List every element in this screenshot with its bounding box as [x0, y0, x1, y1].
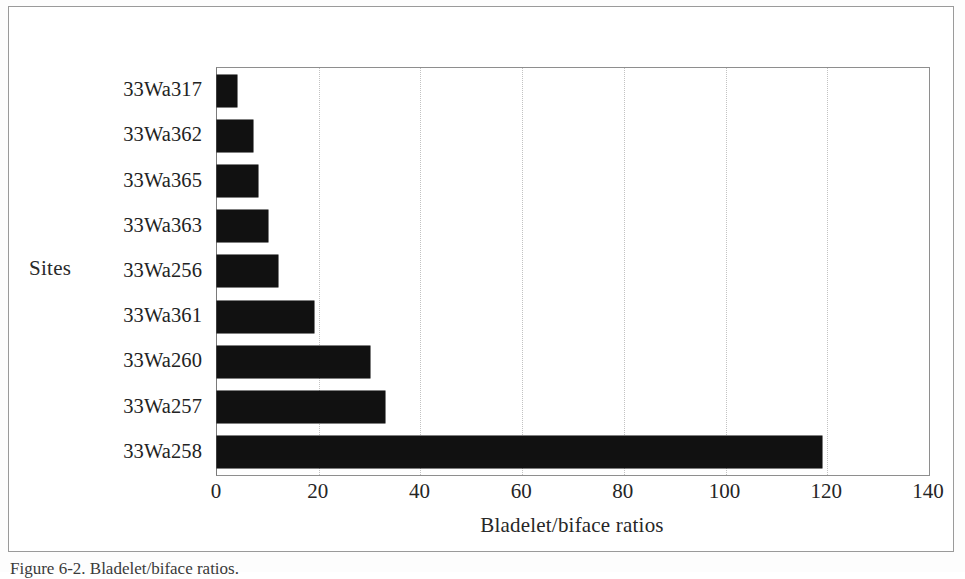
y-axis-title: Sites [29, 256, 109, 280]
figure-frame: Sites 33Wa31733Wa36233Wa36533Wa36333Wa25… [8, 6, 954, 552]
x-axis-tick-labels: 020406080100120140 [216, 479, 928, 509]
bar [217, 75, 237, 107]
bar [217, 346, 370, 378]
category-label: 33Wa362 [105, 112, 209, 157]
bar-row [217, 204, 929, 249]
bar-row [217, 158, 929, 203]
bar [217, 120, 253, 152]
bars-layer [217, 68, 929, 475]
category-label: 33Wa363 [105, 203, 209, 248]
x-tick-label: 80 [612, 479, 633, 504]
category-label: 33Wa317 [105, 67, 209, 112]
bar [217, 391, 385, 423]
category-label: 33Wa256 [105, 248, 209, 293]
category-label: 33Wa257 [105, 384, 209, 429]
bar-row [217, 385, 929, 430]
x-tick-label: 40 [409, 479, 430, 504]
bar [217, 210, 268, 242]
bar-row [217, 294, 929, 339]
category-label: 33Wa365 [105, 157, 209, 202]
bar-row [217, 113, 929, 158]
x-tick-label: 100 [709, 479, 741, 504]
x-tick-label: 0 [211, 479, 222, 504]
figure-caption: Figure 6-2. Bladelet/biface ratios. [10, 559, 950, 579]
x-tick-label: 20 [307, 479, 328, 504]
x-tick-label: 120 [811, 479, 843, 504]
bar [217, 165, 258, 197]
category-axis-labels: 33Wa31733Wa36233Wa36533Wa36333Wa25633Wa3… [105, 67, 209, 474]
category-label: 33Wa258 [105, 429, 209, 474]
bar-row [217, 249, 929, 294]
bar-row [217, 339, 929, 384]
bar [217, 255, 278, 287]
category-label: 33Wa260 [105, 338, 209, 383]
x-axis-title: Bladelet/biface ratios [216, 513, 928, 538]
plot-area [216, 67, 930, 476]
x-tick-label: 140 [912, 479, 944, 504]
bar-row [217, 430, 929, 475]
x-tick-label: 60 [511, 479, 532, 504]
bar [217, 301, 314, 333]
bar [217, 436, 822, 468]
bar-row [217, 68, 929, 113]
category-label: 33Wa361 [105, 293, 209, 338]
